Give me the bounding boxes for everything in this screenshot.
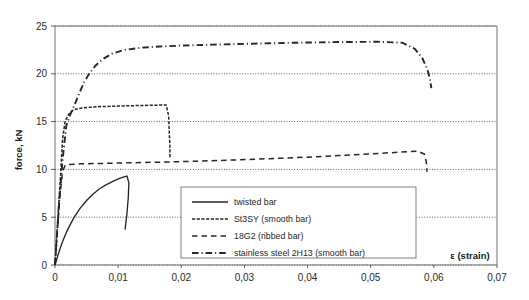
x-tick-label-7: 0,07 (487, 272, 507, 283)
legend-label-1: St3SY (smooth bar) (234, 214, 311, 224)
legend-label-0: twisted bar (234, 197, 277, 207)
x-axis-title: ε (strain) (450, 250, 489, 261)
x-tick-label-0: 0 (52, 272, 58, 283)
legend-label-2: 18G2 (ribbed bar) (234, 231, 304, 241)
x-tick-label-4: 0,04 (298, 272, 318, 283)
y-tick-label-2: 10 (36, 164, 48, 175)
x-tick-label-5: 0,05 (361, 272, 381, 283)
y-tick-label-3: 15 (36, 116, 48, 127)
legend-label-3: stainless steel 2H13 (smooth bar) (234, 248, 365, 258)
y-tick-label-0: 0 (41, 260, 47, 271)
chart-figure: 0510152025 00,010,020,030,040,050,060,07… (0, 0, 529, 300)
y-tick-label-1: 5 (41, 212, 47, 223)
x-tick-label-3: 0,03 (235, 272, 255, 283)
y-axis-title: force, kN (13, 130, 24, 171)
x-tick-label-1: 0,01 (108, 272, 128, 283)
force-strain-chart: 0510152025 00,010,020,030,040,050,060,07… (0, 0, 529, 300)
x-tick-label-6: 0,06 (424, 272, 444, 283)
chart-legend: twisted barSt3SY (smooth bar)18G2 (ribbe… (181, 187, 416, 258)
y-tick-label-5: 25 (36, 21, 48, 32)
x-tick-label-2: 0,02 (172, 272, 192, 283)
y-tick-label-4: 20 (36, 68, 48, 79)
